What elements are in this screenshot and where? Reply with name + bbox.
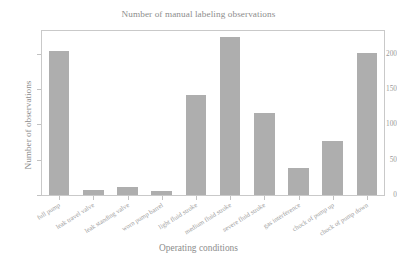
x-tick-mark	[128, 196, 129, 200]
x-tick-mark	[162, 196, 163, 200]
x-tick-mark	[230, 196, 231, 200]
y-tick-mark	[37, 124, 41, 125]
bar-chart-figure: Number of manual labeling observations N…	[0, 0, 397, 264]
bars-container	[42, 31, 384, 195]
bar	[254, 113, 275, 195]
y-tick-mark	[37, 195, 41, 196]
x-tick-mark	[367, 196, 368, 200]
y-tick-mark	[37, 160, 41, 161]
bar	[117, 187, 138, 195]
x-tick-mark	[93, 196, 94, 200]
bar	[322, 141, 343, 195]
x-axis-title: Operating conditions	[0, 243, 397, 253]
y-tick-mark	[37, 89, 41, 90]
y-tick-mark	[37, 54, 41, 55]
y-axis-title: Number of observations	[23, 45, 33, 205]
bar	[357, 53, 378, 195]
bar	[151, 191, 172, 195]
bar	[220, 37, 241, 195]
chart-title: Number of manual labeling observations	[0, 9, 397, 19]
x-tick-mark	[264, 196, 265, 200]
bar	[288, 168, 309, 195]
x-tick-mark	[299, 196, 300, 200]
x-tick-mark	[59, 196, 60, 200]
bar	[186, 95, 207, 195]
x-tick-mark	[196, 196, 197, 200]
bar	[83, 190, 104, 195]
bar	[49, 51, 70, 195]
x-tick-mark	[333, 196, 334, 200]
